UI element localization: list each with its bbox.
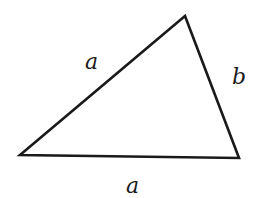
triangle-shape	[20, 16, 239, 158]
side-label-left: a	[85, 49, 98, 74]
triangle-diagram: a b a	[0, 0, 259, 198]
side-label-right: b	[232, 64, 246, 89]
triangle-canvas: a b a	[0, 0, 259, 198]
side-label-bottom: a	[126, 173, 139, 198]
